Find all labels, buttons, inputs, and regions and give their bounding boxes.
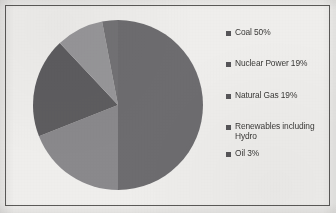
legend-label: Oil 3% [235,149,259,158]
legend-swatch-icon [226,62,231,67]
pie-chart [28,15,208,195]
legend-swatch-icon [226,31,231,36]
legend-item-coal[interactable]: Coal 50% [226,28,330,37]
legend-item-renewables-including-hydro[interactable]: Renewables including Hydro [226,122,330,141]
legend-item-oil[interactable]: Oil 3% [226,149,330,158]
pie-svg [28,15,208,195]
legend-label: Natural Gas 19% [235,91,297,100]
legend-swatch-icon [226,152,231,157]
legend-label: Nuclear Power 19% [235,59,307,68]
legend-label: Renewables including Hydro [235,122,314,141]
legend-swatch-icon [226,125,231,130]
legend-item-natural-gas[interactable]: Natural Gas 19% [226,91,330,100]
pie-slice-coal[interactable] [118,20,203,190]
legend-swatch-icon [226,94,231,99]
legend-label: Coal 50% [235,28,271,37]
pie-chart-screenshot: Coal 50% Nuclear Power 19% Natural Gas 1… [0,0,336,213]
chart-legend: Coal 50% Nuclear Power 19% Natural Gas 1… [226,28,330,158]
legend-item-nuclear-power[interactable]: Nuclear Power 19% [226,59,330,68]
